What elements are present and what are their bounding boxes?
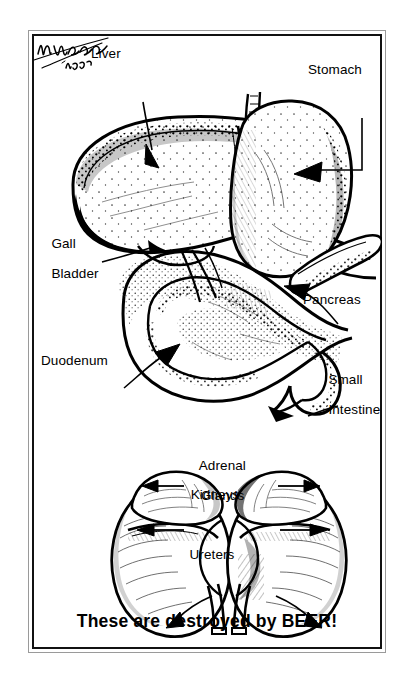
label-ureters: Ureters <box>176 547 248 562</box>
label-gall-bladder-line1: Gall <box>51 236 75 251</box>
label-small-intestine-line2: Intestine <box>328 402 380 417</box>
label-small-intestine-line1: Small <box>328 372 362 387</box>
label-gall-bladder: Gall Bladder <box>36 221 99 296</box>
label-pancreas: Pancreas <box>303 292 361 307</box>
label-liver: Liver <box>91 46 121 61</box>
label-adrenal-glands: Adrenal Glands <box>156 443 274 518</box>
label-gall-bladder-line2: Bladder <box>51 266 98 281</box>
label-duodenum: Duodenum <box>41 353 108 368</box>
label-small-intestine: Small Intestine <box>313 357 380 432</box>
label-adrenal-line1: Adrenal <box>199 458 246 473</box>
poster-caption: These are destroyed by BEER! <box>32 611 382 632</box>
poster-root: Liver Stomach Gall Bladder Pancreas Duod… <box>0 0 414 689</box>
label-kidneys: Kidneys <box>156 487 274 502</box>
label-stomach: Stomach <box>308 62 362 77</box>
